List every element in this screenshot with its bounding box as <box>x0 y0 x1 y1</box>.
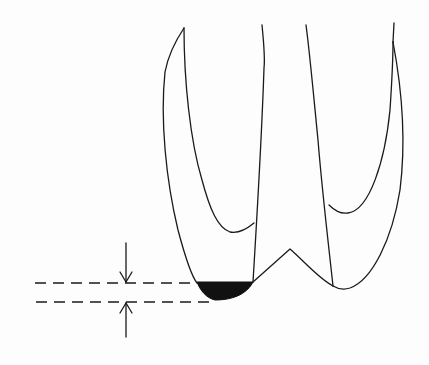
down-arrow <box>120 243 132 282</box>
right-peak <box>393 23 394 42</box>
left-outer-wall <box>163 28 197 283</box>
center-notch <box>253 249 333 286</box>
left-center-line <box>253 25 264 282</box>
cusp-reduction-region <box>197 282 253 300</box>
diagram-canvas: Line drawing of a two-rooted tooth crown… <box>0 0 429 365</box>
right-center-line <box>306 25 333 286</box>
up-arrow <box>120 303 132 337</box>
tooth-diagram <box>0 0 429 365</box>
left-inner-wall <box>184 28 254 232</box>
right-inner-wall <box>329 42 393 213</box>
